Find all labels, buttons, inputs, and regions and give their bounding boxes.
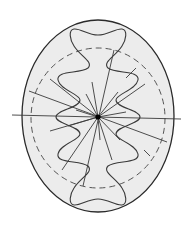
- radial-diagram: [0, 0, 186, 232]
- center-dot: [95, 114, 100, 119]
